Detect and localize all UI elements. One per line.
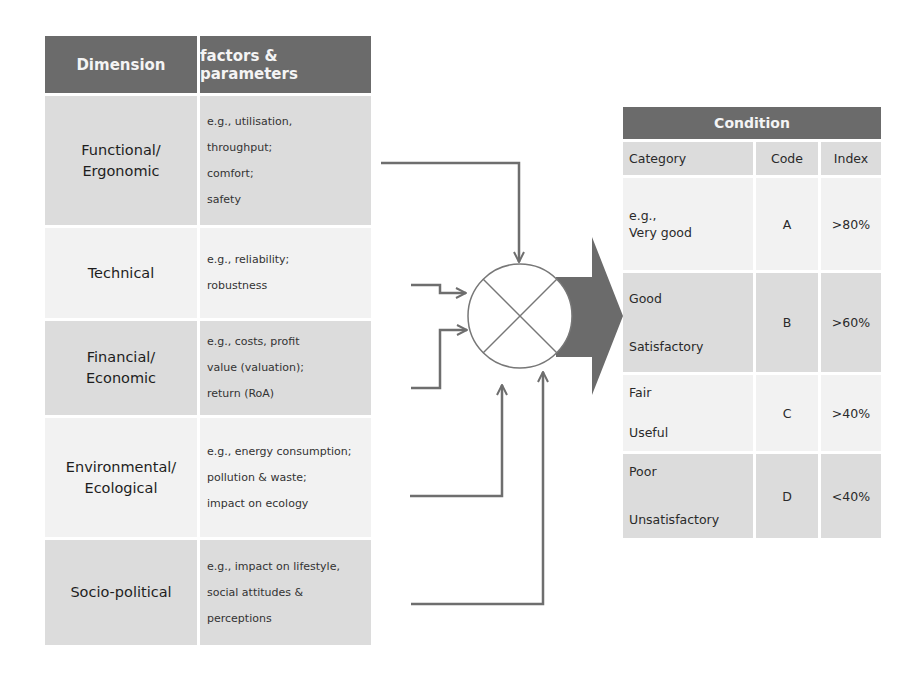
category-fair: Fair Useful [623,375,753,451]
header-category: Category [623,142,753,175]
aggregation-node-icon [468,264,572,368]
connector-environmental [410,385,502,496]
category-line: Poor [629,448,657,496]
category-line: Good [629,275,662,323]
code-c: C [756,375,818,451]
header-code: Code [756,142,818,175]
code-b: B [756,273,818,372]
category-very-good: e.g., Very good [623,178,753,270]
index-c: >40% [821,375,881,451]
code-a: A [756,178,818,270]
condition-title: Condition [623,107,881,139]
connector-technical [411,285,466,293]
category-line: Very good [629,224,692,241]
category-poor: Poor Unsatisfactory [623,454,753,538]
index-b: >60% [821,273,881,372]
index-d: <40% [821,454,881,538]
category-line: Unsatisfactory [629,496,719,544]
connector-financial [411,330,467,388]
category-line: Useful [629,413,668,453]
index-a: >80% [821,178,881,270]
category-line: Satisfactory [629,323,704,371]
code-d: D [756,454,818,538]
connector-functional [381,163,519,262]
header-index: Index [821,142,881,175]
category-good: Good Satisfactory [623,273,753,372]
connector-socio-political [411,372,543,604]
category-line: e.g., [629,207,657,224]
category-line: Fair [629,373,651,413]
